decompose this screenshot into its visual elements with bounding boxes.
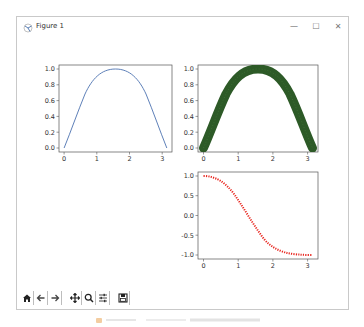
pan-button[interactable] xyxy=(68,291,82,305)
svg-text:0.8: 0.8 xyxy=(45,81,55,89)
svg-text:0.8: 0.8 xyxy=(184,81,194,89)
svg-text:3: 3 xyxy=(306,262,310,270)
x-axis-ticks: 0 1 2 3 xyxy=(62,152,164,163)
axes-bottom-right: -1.0 -0.5 0.0 0.5 1.0 0 1 2 3 xyxy=(181,172,318,270)
svg-text:-0.5: -0.5 xyxy=(181,232,194,240)
x-axis-ticks: 0 1 2 3 xyxy=(201,152,309,163)
svg-text:1: 1 xyxy=(236,262,240,270)
arrow-right-icon xyxy=(50,293,60,303)
y-axis-ticks: 0.0 0.2 0.4 0.6 0.8 1.0 xyxy=(45,65,59,152)
svg-text:1: 1 xyxy=(95,155,99,163)
svg-text:0.6: 0.6 xyxy=(184,97,194,105)
magnifier-icon xyxy=(84,293,94,303)
axes-top-right: 0.0 0.2 0.4 0.6 0.8 1.0 0 1 2 3 xyxy=(184,65,318,163)
home-icon xyxy=(22,293,32,303)
svg-text:1.0: 1.0 xyxy=(45,65,55,73)
svg-text:1.0: 1.0 xyxy=(184,65,194,73)
save-button[interactable] xyxy=(116,291,130,305)
axes-top-left: 0.0 0.2 0.4 0.6 0.8 1.0 0 1 2 3 xyxy=(45,65,172,163)
svg-text:3: 3 xyxy=(160,155,164,163)
svg-text:3: 3 xyxy=(306,155,310,163)
svg-text:0.2: 0.2 xyxy=(45,129,55,137)
svg-text:0.4: 0.4 xyxy=(45,113,55,121)
svg-text:0.0: 0.0 xyxy=(184,212,194,220)
y-axis-ticks: 0.0 0.2 0.4 0.6 0.8 1.0 xyxy=(184,65,198,152)
svg-text:0.2: 0.2 xyxy=(184,129,194,137)
svg-text:0: 0 xyxy=(62,155,66,163)
svg-text:0: 0 xyxy=(201,155,205,163)
move-icon xyxy=(70,293,80,303)
svg-text:0: 0 xyxy=(201,262,205,270)
home-button[interactable] xyxy=(20,291,34,305)
y-axis-ticks: -1.0 -0.5 0.0 0.5 1.0 xyxy=(181,172,198,259)
svg-text:0.0: 0.0 xyxy=(184,144,194,152)
configure-subplots-button[interactable] xyxy=(96,291,110,305)
figure-window: Figure 1 — ☐ ✕ 0.0 0.2 0.4 0.6 0.8 1.0 xyxy=(16,16,349,310)
forward-button[interactable] xyxy=(48,291,62,305)
svg-text:0.4: 0.4 xyxy=(184,113,194,121)
sliders-icon xyxy=(98,293,108,303)
svg-text:1: 1 xyxy=(236,155,240,163)
arrow-left-icon xyxy=(36,293,46,303)
svg-text:0.6: 0.6 xyxy=(45,97,55,105)
blurred-caption xyxy=(90,316,270,324)
svg-text:0.0: 0.0 xyxy=(45,144,55,152)
svg-text:-1.0: -1.0 xyxy=(181,251,194,259)
floppy-icon xyxy=(118,293,128,303)
zoom-button[interactable] xyxy=(82,291,96,305)
figure-canvas[interactable]: 0.0 0.2 0.4 0.6 0.8 1.0 0 1 2 3 xyxy=(17,17,348,287)
navigation-toolbar xyxy=(20,290,130,306)
x-axis-ticks: 0 1 2 3 xyxy=(201,259,309,270)
svg-text:0.5: 0.5 xyxy=(184,192,194,200)
svg-text:2: 2 xyxy=(127,155,131,163)
back-button[interactable] xyxy=(34,291,48,305)
svg-text:2: 2 xyxy=(271,262,275,270)
svg-text:2: 2 xyxy=(271,155,275,163)
svg-text:1.0: 1.0 xyxy=(184,172,194,180)
